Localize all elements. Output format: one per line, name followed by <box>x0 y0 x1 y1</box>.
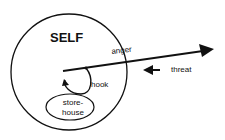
storehouse-label-line2: house <box>58 108 88 118</box>
hook-curve <box>65 68 91 94</box>
self-label: SELF <box>50 31 83 44</box>
hook-label: hook <box>91 81 108 89</box>
storehouse-label-line1: store- <box>58 98 88 108</box>
self-diagram: SELF anger threat hook store- house <box>0 0 225 140</box>
hook-arrowhead-icon <box>62 79 69 86</box>
anger-arrowhead-icon <box>199 44 214 57</box>
threat-arrowhead-icon <box>143 65 153 75</box>
hook-junction-dot <box>85 67 88 70</box>
storehouse-label: store- house <box>58 98 88 118</box>
threat-label: threat <box>171 66 191 74</box>
